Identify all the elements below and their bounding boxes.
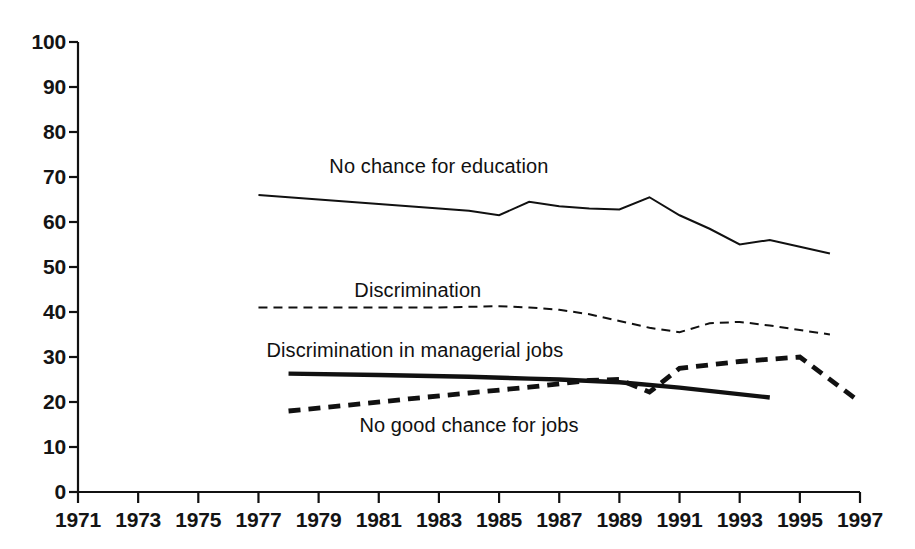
y-tick-label-90: 90 — [8, 75, 66, 99]
y-tick-label-0: 0 — [8, 480, 66, 504]
x-tick-label-1977: 1977 — [235, 508, 281, 532]
series-label-3: No good chance for jobs — [359, 413, 578, 436]
x-tick-label-1973: 1973 — [115, 508, 161, 532]
x-tick-label-1993: 1993 — [717, 508, 763, 532]
x-tick-label-1975: 1975 — [175, 508, 221, 532]
x-tick-label-1979: 1979 — [296, 508, 342, 532]
x-tick-label-1995: 1995 — [777, 508, 823, 532]
series-label-1: Discrimination — [354, 278, 481, 301]
y-tick-label-20: 20 — [8, 390, 66, 414]
y-tick-label-50: 50 — [8, 255, 66, 279]
y-tick-label-70: 70 — [8, 165, 66, 189]
series-line-3 — [289, 357, 860, 411]
y-tick-label-100: 100 — [8, 30, 66, 54]
series-label-2: Discrimination in managerial jobs — [266, 339, 563, 362]
plot-area — [0, 0, 915, 549]
y-tick-label-60: 60 — [8, 210, 66, 234]
y-tick-label-80: 80 — [8, 120, 66, 144]
y-tick-label-10: 10 — [8, 435, 66, 459]
x-tick-label-1991: 1991 — [657, 508, 703, 532]
y-tick-label-30: 30 — [8, 345, 66, 369]
x-tick-label-1989: 1989 — [596, 508, 642, 532]
x-tick-label-1997: 1997 — [837, 508, 883, 532]
series-line-0 — [258, 195, 829, 254]
x-tick-label-1983: 1983 — [416, 508, 462, 532]
series-label-0: No chance for education — [329, 154, 548, 177]
series-group — [258, 195, 860, 411]
x-tick-label-1971: 1971 — [55, 508, 101, 532]
series-line-1 — [258, 306, 829, 334]
x-tick-label-1985: 1985 — [476, 508, 522, 532]
x-tick-label-1981: 1981 — [356, 508, 402, 532]
line-chart: 0102030405060708090100 19711973197519771… — [0, 0, 915, 549]
y-tick-label-40: 40 — [8, 300, 66, 324]
x-tick-label-1987: 1987 — [536, 508, 582, 532]
